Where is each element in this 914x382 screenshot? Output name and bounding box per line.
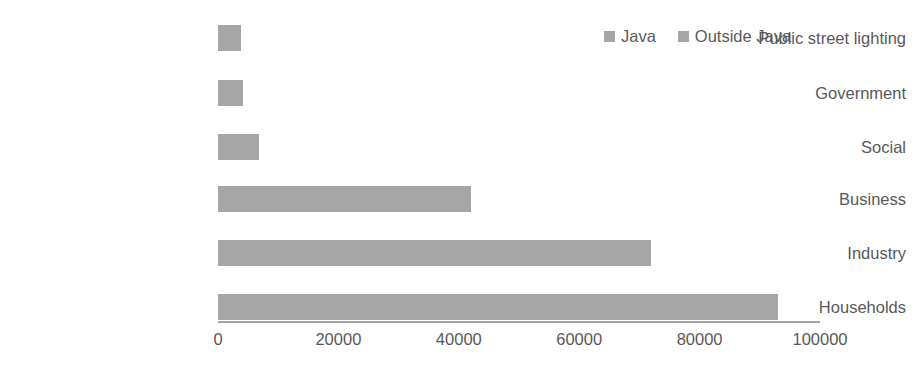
bar-households[interactable] [218, 294, 778, 320]
chart-row: Social [0, 128, 914, 166]
category-label: Social [704, 128, 914, 166]
x-tick-label: 100000 [792, 330, 847, 349]
x-tick-label: 40000 [436, 330, 482, 349]
bar-public-street-lighting[interactable] [218, 25, 241, 51]
category-label: Industry [704, 234, 914, 272]
bar-chart: Java Outside Java Public street lighting… [0, 0, 914, 382]
chart-row: Public street lighting [0, 19, 914, 57]
x-tick-label: 80000 [677, 330, 723, 349]
chart-row: Government [0, 74, 914, 112]
category-label: Business [704, 180, 914, 218]
chart-row: Industry [0, 234, 914, 272]
bar-government[interactable] [218, 80, 243, 106]
chart-row: Business [0, 180, 914, 218]
bar-business[interactable] [218, 186, 471, 212]
bar-social[interactable] [218, 134, 259, 160]
category-label: Public street lighting [704, 19, 914, 57]
bar-industry[interactable] [218, 240, 651, 266]
plot-area: Public street lighting Government Social… [0, 0, 914, 382]
category-label: Government [704, 74, 914, 112]
x-tick-label: 0 [213, 330, 222, 349]
x-tick-label: 60000 [556, 330, 602, 349]
x-axis-line [218, 321, 820, 323]
x-tick-label: 20000 [315, 330, 361, 349]
